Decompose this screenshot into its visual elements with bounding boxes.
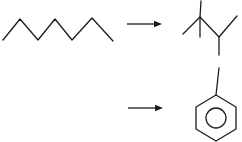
toluene-bond-path <box>196 95 236 141</box>
trimethylbutane-bond-path <box>183 16 237 37</box>
reaction-scheme-page <box>0 0 242 142</box>
heptane-bond-path <box>3 18 113 41</box>
heptane-skeletal-structure <box>3 18 113 41</box>
reaction-arrow-1-head <box>154 21 162 27</box>
trimethylbutane-bond-path <box>200 1 201 17</box>
reaction-arrow-1 <box>127 21 162 27</box>
toluene-bond-path <box>216 68 219 95</box>
reaction-arrow-2-head <box>155 105 163 111</box>
toluene-aromatic-circle <box>206 108 226 128</box>
toluene-skeletal-structure <box>196 68 236 141</box>
reaction-scheme <box>0 0 242 142</box>
reaction-arrow-2 <box>128 105 163 111</box>
2-2-3-trimethylbutane-skeletal-structure <box>183 1 237 55</box>
